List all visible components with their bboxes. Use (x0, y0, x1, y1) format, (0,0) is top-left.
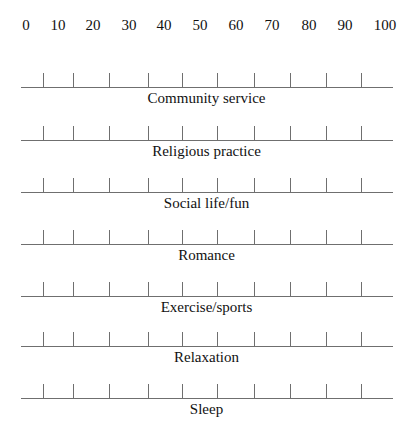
rating-line[interactable] (21, 346, 393, 347)
tick-mark (326, 73, 327, 87)
rating-row-exercise-sports: Exercise/sports (0, 282, 413, 322)
rating-row-label: Exercise/sports (0, 298, 413, 316)
scale-label-60: 60 (229, 16, 244, 34)
tick-mark (326, 384, 327, 398)
tick-mark (148, 178, 149, 192)
rating-line[interactable] (21, 192, 393, 193)
rating-row-relaxation: Relaxation (0, 332, 413, 372)
tick-mark (73, 230, 74, 244)
tick-mark (148, 73, 149, 87)
tick-mark (43, 332, 44, 346)
rating-row-label: Sleep (0, 400, 413, 418)
percentage-scale-header: 0 10 20 30 40 50 60 70 80 90 100 (0, 0, 413, 40)
tick-mark (182, 178, 183, 192)
tick-mark (182, 384, 183, 398)
tick-mark (43, 73, 44, 87)
tick-mark (182, 230, 183, 244)
tick-mark (73, 384, 74, 398)
tick-mark (361, 126, 362, 140)
rating-line[interactable] (21, 296, 393, 297)
tick-mark (326, 178, 327, 192)
tick-mark (148, 384, 149, 398)
tick-mark (254, 332, 255, 346)
tick-mark (361, 282, 362, 296)
tick-mark (73, 73, 74, 87)
tick-mark (290, 230, 291, 244)
scale-label-70: 70 (265, 16, 280, 34)
tick-mark (361, 178, 362, 192)
tick-mark (109, 73, 110, 87)
tick-mark (290, 178, 291, 192)
tick-mark (290, 126, 291, 140)
tick-mark (148, 282, 149, 296)
rating-row-label: Religious practice (0, 142, 413, 160)
tick-mark (254, 282, 255, 296)
tick-mark (361, 230, 362, 244)
rating-row-romance: Romance (0, 230, 413, 270)
tick-mark (217, 282, 218, 296)
rating-row-sleep: Sleep (0, 384, 413, 424)
tick-mark (217, 178, 218, 192)
tick-mark (290, 73, 291, 87)
rating-line[interactable] (21, 244, 393, 245)
tick-mark (73, 126, 74, 140)
tick-mark (73, 282, 74, 296)
tick-mark (43, 230, 44, 244)
tick-mark (182, 332, 183, 346)
tick-mark (182, 126, 183, 140)
tick-mark (109, 282, 110, 296)
tick-mark (109, 332, 110, 346)
tick-mark (109, 384, 110, 398)
tick-mark (290, 384, 291, 398)
tick-mark (109, 230, 110, 244)
rating-line[interactable] (21, 87, 393, 88)
tick-mark (254, 230, 255, 244)
tick-mark (109, 126, 110, 140)
rating-row-label: Community service (0, 89, 413, 107)
scale-label-20: 20 (86, 16, 101, 34)
tick-mark (254, 178, 255, 192)
tick-mark (182, 282, 183, 296)
scale-label-50: 50 (193, 16, 208, 34)
tick-mark (217, 126, 218, 140)
rating-row-label: Romance (0, 246, 413, 264)
tick-mark (326, 230, 327, 244)
tick-mark (217, 73, 218, 87)
tick-mark (217, 332, 218, 346)
scale-label-40: 40 (157, 16, 172, 34)
scale-label-100: 100 (374, 16, 397, 34)
tick-mark (254, 384, 255, 398)
rating-row-social-life-fun: Social life/fun (0, 178, 413, 218)
scale-label-90: 90 (338, 16, 353, 34)
tick-mark (43, 384, 44, 398)
tick-mark (148, 230, 149, 244)
tick-mark (326, 282, 327, 296)
tick-mark (326, 126, 327, 140)
tick-mark (109, 178, 110, 192)
tick-mark (254, 73, 255, 87)
tick-mark (361, 384, 362, 398)
rating-row-community-service: Community service (0, 73, 413, 113)
tick-mark (148, 126, 149, 140)
tick-mark (148, 332, 149, 346)
rating-line[interactable] (21, 398, 393, 399)
tick-mark (290, 332, 291, 346)
tick-mark (43, 126, 44, 140)
tick-mark (217, 384, 218, 398)
tick-mark (326, 332, 327, 346)
tick-mark (361, 332, 362, 346)
tick-mark (217, 230, 218, 244)
rating-line[interactable] (21, 140, 393, 141)
rating-row-label: Relaxation (0, 348, 413, 366)
tick-mark (43, 178, 44, 192)
rating-row-label: Social life/fun (0, 194, 413, 212)
scale-label-30: 30 (122, 16, 137, 34)
tick-mark (254, 126, 255, 140)
rating-row-religious-practice: Religious practice (0, 126, 413, 166)
tick-mark (290, 282, 291, 296)
tick-mark (182, 73, 183, 87)
scale-label-80: 80 (302, 16, 317, 34)
tick-mark (73, 332, 74, 346)
tick-mark (73, 178, 74, 192)
scale-label-10: 10 (51, 16, 66, 34)
